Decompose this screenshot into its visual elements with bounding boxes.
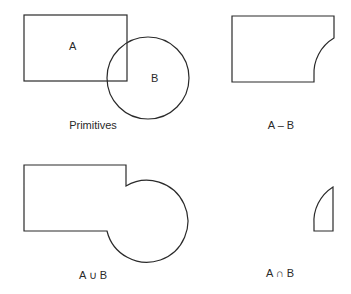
panel-primitives: A B Primitives [24, 15, 189, 131]
caption-union: A ∪ B [79, 269, 107, 281]
panel-union: A ∪ B [24, 165, 188, 281]
difference-shape [232, 16, 334, 82]
primitive-circle-b [107, 37, 189, 119]
boolean-operations-diagram: A B Primitives A – B A ∪ B A ∩ B [0, 0, 351, 294]
panel-difference: A – B [232, 16, 334, 131]
label-a: A [69, 40, 77, 52]
caption-difference: A – B [268, 119, 294, 131]
panel-intersection: A ∩ B [266, 187, 333, 279]
intersection-shape [314, 187, 333, 231]
union-shape [24, 165, 188, 262]
caption-intersection: A ∩ B [266, 267, 294, 279]
caption-primitives: Primitives [69, 119, 117, 131]
label-b: B [151, 72, 158, 84]
